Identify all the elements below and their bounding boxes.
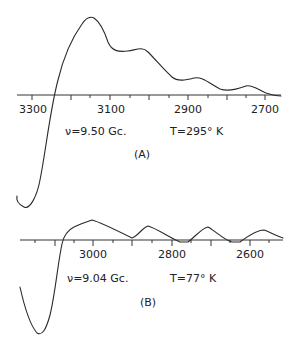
panel-b-tick-label-2800: 2800: [158, 248, 186, 261]
panel-b-tick-label-3000: 3000: [79, 248, 107, 261]
panel-b-label: (B): [140, 296, 156, 309]
panel-b-tick-label-2600: 2600: [236, 248, 264, 261]
panel-b-frequency-annotation: ν=9.04 Gc.: [67, 272, 128, 285]
panel-b-temperature-annotation: T=77° K: [169, 272, 217, 285]
figure: 3300 3100 2900 2700 ν=9.50 Gc. T=295° K …: [0, 0, 299, 346]
panel-b: 3000 2800 2600 ν=9.04 Gc. T=77° K (B): [20, 220, 283, 334]
panel-a-label: (A): [134, 148, 150, 161]
panel-a-temperature-annotation: T=295° K: [169, 125, 224, 138]
panel-a-major-ticks: [32, 95, 265, 100]
panel-a-tick-label-3300: 3300: [19, 103, 47, 116]
panel-a-tick-label-2700: 2700: [251, 103, 279, 116]
panel-a: 3300 3100 2900 2700 ν=9.50 Gc. T=295° K …: [17, 17, 281, 207]
panel-a-tick-label-2900: 2900: [174, 103, 202, 116]
panel-b-curve: [20, 220, 283, 334]
panel-a-curve: [17, 17, 281, 207]
panel-a-frequency-annotation: ν=9.50 Gc.: [65, 125, 126, 138]
panel-a-tick-label-3100: 3100: [97, 103, 125, 116]
